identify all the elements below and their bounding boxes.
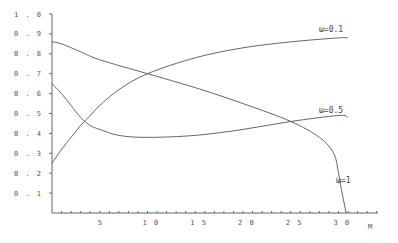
y-tick-label: 0 . 2 <box>14 170 43 178</box>
y-axis: 0 . 10 . 20 . 30 . 40 . 50 . 60 . 70 . 8… <box>14 11 52 214</box>
x-axis-label: M <box>368 223 374 231</box>
x-tick-label: 2 5 <box>286 219 303 227</box>
y-tick-label: 1 . 0 <box>14 11 43 19</box>
series-line-omega-0.5 <box>52 84 348 138</box>
plot-area <box>52 38 348 213</box>
series-label-omega-0.5: ω=0.5 <box>319 106 343 115</box>
x-tick-label: 5 <box>98 219 104 227</box>
y-tick-label: 0 . 4 <box>14 130 43 138</box>
x-axis: 51 01 52 02 53 0 M <box>52 211 378 231</box>
line-chart: 0 . 10 . 20 . 30 . 40 . 50 . 60 . 70 . 8… <box>0 0 398 243</box>
y-tick-label: 0 . 6 <box>14 90 43 98</box>
series-label-omega-0.1: ω=0.1 <box>319 25 343 34</box>
series-line-omega-1 <box>52 42 346 213</box>
x-tick-label: 1 5 <box>190 219 207 227</box>
series-label-omega-1: ω=1 <box>336 176 351 185</box>
x-tick-label: 3 0 <box>334 219 351 227</box>
y-tick-label: 0 . 9 <box>14 30 43 38</box>
x-tick-label: 2 0 <box>238 219 255 227</box>
y-tick-label: 0 . 5 <box>14 110 43 118</box>
y-tick-label: 0 . 8 <box>14 50 43 58</box>
series-line-omega-0.1 <box>52 38 348 164</box>
y-tick-label: 0 . 1 <box>14 190 43 198</box>
y-tick-label: 0 . 7 <box>14 70 43 78</box>
y-tick-label: 0 . 3 <box>14 150 43 158</box>
x-tick-label: 1 0 <box>143 219 160 227</box>
